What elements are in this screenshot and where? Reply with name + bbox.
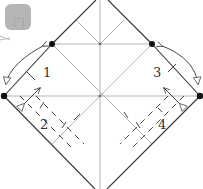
origami-diagram [0,0,203,189]
motion-marks [0,36,10,40]
expand-icon [14,18,24,27]
step-label-4: 4 [158,118,166,131]
reference-dots [1,41,203,99]
fold-arrow-right [162,46,198,84]
fold-arrow-left [6,46,43,84]
expand-button[interactable] [5,4,31,30]
step-label-2: 2 [40,118,48,131]
step-label-3: 3 [153,66,161,79]
step-label-1: 1 [43,66,51,79]
